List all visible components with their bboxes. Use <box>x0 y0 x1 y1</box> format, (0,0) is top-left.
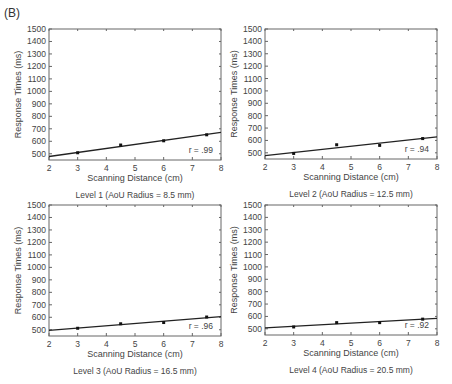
chart-caption: Level 4 (AoU Radius = 20.5 mm) <box>289 365 413 375</box>
data-point <box>76 151 79 154</box>
y-tick-label: 500 <box>248 148 262 158</box>
y-axis-label: Response Times (ms) <box>13 227 23 315</box>
x-tick-label: 7 <box>190 339 195 349</box>
x-tick-label: 2 <box>47 163 52 173</box>
x-tick-label: 4 <box>104 163 109 173</box>
x-tick-label: 5 <box>133 339 138 349</box>
x-tick-label: 4 <box>320 338 325 348</box>
y-tick-label: 600 <box>248 311 262 321</box>
y-tick-label: 1000 <box>27 86 46 96</box>
x-tick-label: 7 <box>406 162 411 172</box>
x-tick-label: 3 <box>291 162 296 172</box>
chart-level-4: 5006007008009001000110012001300140015002… <box>229 200 440 375</box>
y-tick-label: 700 <box>248 123 262 133</box>
y-tick-label: 800 <box>248 111 262 121</box>
x-tick-label: 7 <box>190 163 195 173</box>
x-tick-label: 5 <box>349 338 354 348</box>
y-tick-label: 700 <box>32 300 46 310</box>
x-tick-label: 2 <box>263 162 268 172</box>
data-point <box>119 144 122 147</box>
data-point <box>292 325 295 328</box>
plot-frame <box>49 29 221 160</box>
x-axis-label: Scanning Distance (cm) <box>303 172 399 182</box>
y-tick-label: 1500 <box>243 200 262 210</box>
correlation-annotation: r = .96 <box>189 321 214 331</box>
x-axis-label: Scanning Distance (cm) <box>303 348 399 358</box>
y-tick-label: 800 <box>32 111 46 121</box>
y-tick-label: 600 <box>248 135 262 145</box>
x-tick-label: 6 <box>161 163 166 173</box>
x-axis-label: Scanning Distance (cm) <box>87 173 183 183</box>
x-tick-label: 3 <box>75 163 80 173</box>
y-tick-label: 1300 <box>27 49 46 59</box>
x-tick-label: 3 <box>75 339 80 349</box>
y-tick-label: 1000 <box>243 262 262 272</box>
y-tick-label: 500 <box>32 325 46 335</box>
y-tick-label: 1500 <box>243 24 262 34</box>
y-tick-label: 1200 <box>27 61 46 71</box>
data-point <box>292 152 295 155</box>
correlation-annotation: r = .92 <box>405 320 430 330</box>
y-tick-label: 1000 <box>27 262 46 272</box>
data-point <box>162 321 165 324</box>
y-tick-label: 1200 <box>243 237 262 247</box>
data-point <box>162 139 165 142</box>
y-axis-label: Response Times (ms) <box>229 226 239 314</box>
data-point <box>378 321 381 324</box>
x-tick-label: 5 <box>133 163 138 173</box>
chart-caption: Level 1 (AoU Radius = 8.5 mm) <box>76 190 195 200</box>
y-tick-label: 500 <box>32 149 46 159</box>
chart-level-2: 5006007008009001000110012001300140015002… <box>229 24 440 199</box>
x-tick-label: 8 <box>435 162 440 172</box>
y-tick-label: 1100 <box>244 250 263 260</box>
x-tick-label: 8 <box>219 339 224 349</box>
y-tick-label: 900 <box>248 274 262 284</box>
data-point <box>205 316 208 319</box>
plot-frame <box>265 205 437 335</box>
y-tick-label: 1100 <box>28 250 47 260</box>
correlation-annotation: r = .94 <box>405 144 430 154</box>
data-point <box>335 321 338 324</box>
correlation-annotation: r = .99 <box>189 145 214 155</box>
x-tick-label: 6 <box>377 162 382 172</box>
y-tick-label: 1200 <box>27 237 46 247</box>
y-tick-label: 900 <box>32 99 46 109</box>
y-tick-label: 1300 <box>243 225 262 235</box>
data-point <box>119 322 122 325</box>
y-tick-label: 700 <box>248 299 262 309</box>
y-tick-label: 1500 <box>27 200 46 210</box>
chart-level-3: 5006007008009001000110012001300140015002… <box>13 200 224 376</box>
y-tick-label: 1400 <box>243 36 262 46</box>
x-tick-label: 6 <box>161 339 166 349</box>
x-tick-label: 2 <box>47 339 52 349</box>
chart-caption: Level 2 (AoU Radius = 12.5 mm) <box>289 189 413 199</box>
x-tick-label: 4 <box>104 339 109 349</box>
chart-level-1: 5006007008009001000110012001300140015002… <box>13 24 224 200</box>
data-point <box>335 143 338 146</box>
y-tick-label: 900 <box>32 275 46 285</box>
x-tick-label: 6 <box>377 338 382 348</box>
y-tick-label: 1300 <box>27 225 46 235</box>
y-tick-label: 600 <box>32 136 46 146</box>
y-axis-label: Response Times (ms) <box>13 51 23 139</box>
y-axis-label: Response Times (ms) <box>229 50 239 138</box>
y-tick-label: 1400 <box>27 36 46 46</box>
y-tick-label: 800 <box>32 287 46 297</box>
y-tick-label: 1100 <box>28 74 47 84</box>
y-tick-label: 1500 <box>27 24 46 34</box>
y-tick-label: 500 <box>248 324 262 334</box>
y-tick-label: 1200 <box>243 61 262 71</box>
x-tick-label: 5 <box>349 162 354 172</box>
x-tick-label: 7 <box>406 338 411 348</box>
y-tick-label: 700 <box>32 124 46 134</box>
y-tick-label: 1400 <box>243 212 262 222</box>
y-tick-label: 1400 <box>27 212 46 222</box>
x-tick-label: 3 <box>291 338 296 348</box>
x-tick-label: 8 <box>219 163 224 173</box>
x-axis-label: Scanning Distance (cm) <box>87 349 183 359</box>
y-tick-label: 1300 <box>243 49 262 59</box>
y-tick-label: 1100 <box>244 74 263 84</box>
x-tick-label: 4 <box>320 162 325 172</box>
y-tick-label: 1000 <box>243 86 262 96</box>
y-tick-label: 900 <box>248 98 262 108</box>
